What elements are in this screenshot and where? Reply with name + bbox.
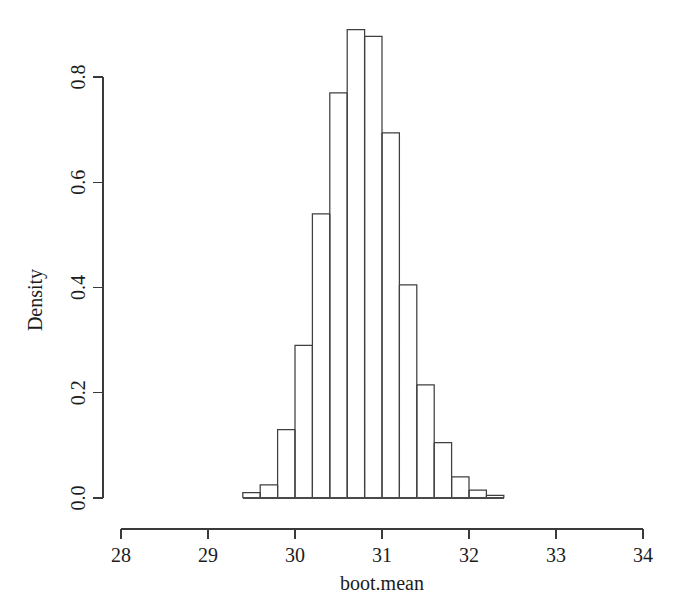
x-tick-label: 33 — [546, 544, 566, 566]
histogram-bars — [243, 30, 504, 498]
x-tick-label: 32 — [459, 544, 479, 566]
y-tick-label: 0.4 — [67, 275, 89, 300]
x-tick-label: 31 — [372, 544, 392, 566]
histogram-bar-outline — [243, 30, 504, 498]
y-tick-label: 0.6 — [67, 170, 89, 195]
x-axis-title: boot.mean — [340, 572, 424, 594]
y-tick-label: 0.8 — [67, 65, 89, 90]
y-tick-label: 0.0 — [67, 486, 89, 511]
histogram-plot: 0.00.20.40.60.8 28293031323334 boot.mean… — [0, 0, 694, 606]
x-axis — [121, 529, 643, 539]
x-tick-label: 34 — [633, 544, 653, 566]
x-tick-label: 28 — [111, 544, 131, 566]
y-tick-labels: 0.00.20.40.60.8 — [67, 65, 89, 511]
histogram-figure: 0.00.20.40.60.8 28293031323334 boot.mean… — [0, 0, 694, 606]
y-axis-title: Density — [24, 269, 47, 331]
x-tick-label: 29 — [198, 544, 218, 566]
x-tick-labels: 28293031323334 — [111, 544, 653, 566]
y-tick-label: 0.2 — [67, 380, 89, 405]
x-tick-label: 30 — [285, 544, 305, 566]
y-axis — [93, 77, 103, 498]
